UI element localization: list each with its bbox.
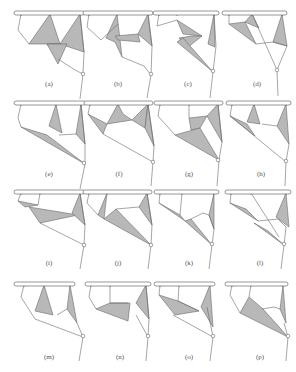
ground-bar	[154, 101, 223, 105]
ground-bar	[14, 101, 86, 105]
ground-bar	[153, 11, 219, 15]
panel-label: (e)	[45, 170, 53, 178]
panel-j: (j)	[83, 190, 153, 269]
link-line	[210, 337, 213, 361]
link-line	[277, 46, 287, 70]
shaded-link	[139, 193, 152, 225]
link-line	[217, 160, 219, 186]
joint-circle	[282, 242, 286, 246]
joint-circle	[81, 334, 85, 338]
shaded-link	[136, 285, 149, 319]
joint-circle	[151, 160, 155, 164]
panel-label: (j)	[115, 259, 122, 267]
shaded-link	[208, 14, 215, 47]
panel-label: (c)	[184, 80, 192, 88]
ground-bar	[226, 101, 291, 105]
ground-bar	[83, 190, 152, 194]
shaded-link	[72, 193, 85, 225]
panel-label: (i)	[46, 259, 53, 267]
panel-i: (i)	[14, 190, 86, 269]
link-line	[180, 193, 182, 215]
link-line	[136, 315, 148, 337]
joint-circle	[210, 242, 214, 246]
joint-circle	[82, 161, 86, 165]
link-line	[21, 285, 24, 297]
shaded-link	[29, 207, 78, 223]
link-line	[151, 46, 152, 75]
joint-circle	[81, 72, 85, 76]
link-line	[103, 134, 153, 162]
link-line	[58, 59, 75, 70]
link-line	[262, 307, 274, 309]
link-line	[116, 207, 139, 209]
panel-a: (a)	[14, 11, 85, 99]
ground-bar	[154, 282, 215, 286]
joint-circle	[149, 243, 153, 247]
panel-label: (b)	[114, 80, 123, 88]
link-line	[80, 74, 83, 99]
link-line	[18, 104, 21, 118]
ground-bar	[14, 11, 85, 15]
shaded-link	[276, 193, 289, 227]
shaded-link	[254, 223, 284, 245]
link-line	[57, 309, 67, 315]
panel-f: (f)	[84, 101, 155, 186]
ground-bar	[83, 11, 153, 15]
linkage-figure: (a)(b)(c)(d)(e)(f)(g)(h)(i)(j)(k)(l)(m)(…	[0, 0, 296, 372]
link-line	[87, 203, 98, 215]
link-line	[281, 245, 284, 269]
panel-label: (h)	[257, 170, 266, 178]
ground-bar	[14, 190, 85, 194]
link-line	[79, 337, 83, 361]
joint-circle	[149, 72, 153, 76]
panel-label: (n)	[116, 353, 125, 361]
panel-p: (p)	[225, 282, 290, 361]
shaded-link	[18, 201, 38, 207]
shaded-link	[209, 193, 214, 229]
link-line	[18, 14, 21, 30]
panel-d: (d)	[222, 11, 287, 96]
joint-circle	[275, 68, 279, 72]
link-line	[87, 27, 101, 40]
link-line	[18, 118, 21, 127]
panel-b: (b)	[83, 11, 153, 98]
shaded-link	[247, 104, 260, 124]
link-line	[83, 52, 84, 74]
link-line	[89, 297, 96, 309]
link-line	[219, 142, 222, 160]
link-line	[84, 225, 85, 245]
link-line	[213, 46, 216, 72]
shaded-link	[277, 104, 289, 144]
joint-circle	[82, 243, 86, 247]
link-line	[80, 164, 85, 189]
joint-circle	[211, 69, 215, 73]
joint-circle	[284, 159, 288, 163]
link-line	[277, 70, 278, 96]
shaded-link	[35, 285, 53, 315]
shaded-link	[177, 20, 202, 36]
shaded-link	[230, 203, 258, 221]
link-line	[59, 134, 76, 135]
panel-label: (g)	[185, 170, 194, 178]
shaded-link	[47, 44, 67, 64]
link-line	[210, 72, 213, 98]
link-line	[158, 116, 175, 135]
link-line	[178, 285, 179, 301]
panel-label: (f)	[116, 170, 124, 178]
link-line	[262, 124, 277, 126]
panel-label: (k)	[185, 259, 194, 267]
shaded-link	[49, 104, 62, 133]
link-line	[80, 245, 84, 269]
panel-label: (p)	[256, 353, 265, 361]
shaded-link	[280, 285, 286, 323]
panel-label: (l)	[257, 259, 264, 267]
ground-bar	[14, 282, 75, 286]
panel-c: (c)	[153, 11, 219, 98]
link-line	[146, 337, 148, 361]
shaded-link	[177, 38, 213, 72]
panel-label: (d)	[253, 80, 262, 88]
ground-bar	[154, 190, 219, 194]
panel-g: (g)	[154, 101, 223, 186]
ground-bar	[85, 282, 151, 286]
link-line	[153, 146, 154, 162]
